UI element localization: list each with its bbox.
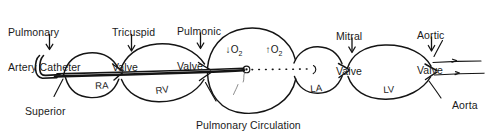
oxygen-increase-subscript: 2 (279, 50, 283, 57)
oxygen-decrease-gas: O (231, 44, 239, 55)
callout-mitral-valve: Mitral Valve (336, 7, 362, 101)
callout-tricuspid-valve-line1: Tricuspid (112, 27, 155, 39)
callout-aortic-valve-line2: Valve (417, 65, 444, 77)
label-oxygen-increase: ↑O2 (254, 33, 283, 69)
callout-pulmonary-artery-catheter-line1: Pulmonary (8, 27, 81, 39)
callout-tricuspid-valve: Tricuspid Valve (112, 3, 155, 97)
oxygen-increase-gas: O (271, 44, 279, 55)
figure-caption: Pulmonary Circulation (196, 120, 301, 132)
callout-mitral-valve-line2: Valve (336, 66, 362, 78)
label-aorta-line1: Aorta (452, 100, 478, 112)
label-superior-vena-cava: Superior Vena Cava (25, 82, 77, 138)
oxygen-decrease-subscript: 2 (239, 50, 243, 57)
label-left-atrium: LA (310, 83, 323, 94)
label-superior-vena-cava-line1: Superior (25, 106, 77, 118)
callout-aortic-valve: Aortic Valve (417, 6, 444, 100)
label-aorta: Aorta (452, 76, 478, 135)
callout-aortic-valve-line1: Aortic (417, 30, 444, 42)
label-right-atrium: RA (95, 81, 109, 92)
label-left-ventricle: LV (383, 84, 395, 95)
label-oxygen-decrease: ↓O2 (214, 33, 243, 69)
callout-pulmonary-artery-catheter-line2: Artery Catheter (8, 62, 81, 74)
label-right-ventricle: RV (155, 84, 169, 96)
callout-mitral-valve-line1: Mitral (336, 31, 362, 43)
callout-tricuspid-valve-line2: Valve (112, 62, 155, 74)
pulmonary-artery-catheter-diagram: Pulmonary Artery Catheter Tricuspid Valv… (0, 0, 491, 138)
